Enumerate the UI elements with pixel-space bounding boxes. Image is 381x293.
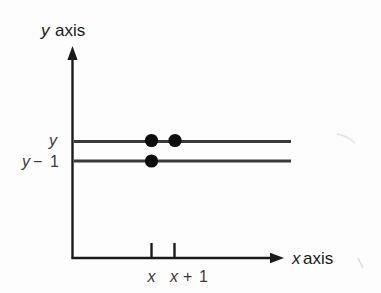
x-axis-title: x axis	[291, 249, 333, 268]
y-tick-label-y-minus-1-number: 1	[50, 153, 59, 170]
y-tick-label-y: y	[48, 132, 58, 149]
y-tick-label-y-minus-1-operator: −	[33, 153, 42, 170]
y-tick-label-y-minus-1-var: y	[21, 153, 31, 170]
data-point-x-y	[145, 134, 158, 147]
x-axis-title-word: axis	[303, 249, 333, 268]
y-axis-title-var: y	[40, 21, 51, 40]
x-tick-label-x-plus-1-number: 1	[199, 268, 208, 285]
x-tick-label-x-plus-1-operator: +	[183, 268, 192, 285]
x-tick-label-x: x	[147, 268, 157, 285]
y-axis-title: y axis	[40, 21, 85, 40]
x-axis-title-var: x	[291, 249, 301, 268]
coordinate-diagram: y axis x axis y y − 1 x x + 1	[0, 0, 381, 293]
data-point-x-y-minus-1	[145, 154, 158, 167]
x-tick-label-x-plus-1-var: x	[169, 268, 179, 285]
figure-container: y axis x axis y y − 1 x x + 1	[0, 0, 381, 293]
y-axis-title-word: axis	[55, 21, 85, 40]
data-point-x-plus-1-y	[168, 134, 181, 147]
